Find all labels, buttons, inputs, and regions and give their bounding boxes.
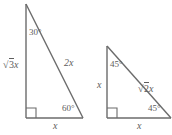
triangle-45-45-90: [107, 46, 171, 118]
left-triangle-hypotenuse-label: 2x: [64, 58, 73, 68]
right-triangle-angle-bottom-right: 45°: [148, 104, 161, 113]
right-triangle-hypotenuse: [107, 46, 171, 118]
radical-sign: √: [138, 83, 144, 94]
variable: x: [14, 59, 18, 70]
geometry-figure: 30° 60° √3x 2x x 45° 45° x √2x x: [0, 0, 172, 135]
left-triangle-base-label: x: [53, 121, 57, 131]
radical-sign: √: [3, 59, 9, 70]
left-triangle-vertical-leg-label: √3x: [2, 60, 172, 70]
left-triangle-angle-bottom-right: 60°: [62, 104, 75, 113]
right-triangle-vertical-leg-label: x: [97, 80, 101, 90]
right-triangle-angle-top: 45°: [110, 60, 123, 69]
left-triangle-angle-top: 30°: [29, 28, 42, 37]
right-triangle-base-label: x: [137, 121, 141, 131]
left-triangle-right-angle-icon: [26, 108, 36, 118]
right-triangle-right-angle-icon: [107, 108, 117, 118]
right-triangle-hypotenuse-label: √2x: [137, 84, 172, 94]
variable: x: [149, 83, 153, 94]
